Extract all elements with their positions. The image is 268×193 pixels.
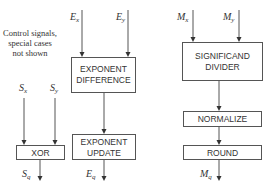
input-label-ey: Ey — [115, 11, 126, 24]
input-label-ex: Ex — [69, 11, 80, 24]
control-signals-note: Control signals, special cases not shown — [3, 28, 57, 58]
svg-text:DIVIDER: DIVIDER — [205, 62, 239, 72]
arrowhead-icon — [237, 37, 242, 42]
arrowhead-icon — [217, 140, 222, 145]
input-label-mx: Mx — [176, 11, 189, 24]
output-label-sq: Sq — [22, 168, 31, 181]
floating-point-divider-diagram: Control signals, special cases not shown… — [0, 0, 268, 193]
arrowhead-icon — [80, 52, 85, 57]
arrowhead-icon — [102, 176, 107, 181]
svg-text:not shown: not shown — [12, 48, 48, 58]
arrowhead-icon — [102, 129, 107, 134]
arrowhead-icon — [22, 140, 27, 145]
output-label-eq: Eq — [85, 168, 96, 181]
arrowhead-icon — [53, 140, 58, 145]
input-label-my: My — [222, 11, 235, 24]
svg-text:DIFFERENCE: DIFFERENCE — [76, 75, 131, 85]
arrowhead-icon — [191, 37, 196, 42]
arrowhead-icon — [126, 52, 131, 57]
svg-text:special cases: special cases — [8, 38, 52, 48]
input-label-sy: Sy — [50, 82, 59, 95]
arrowhead-icon — [217, 106, 222, 111]
svg-text:UPDATE: UPDATE — [87, 148, 121, 158]
exponent-path: Ex Ey EXPONENT DIFFERENCE EXPONENT UPDAT… — [69, 10, 136, 181]
sign-path: Sx Sy XOR Sq — [17, 82, 65, 181]
svg-text:SIGNIFICAND: SIGNIFICAND — [195, 51, 250, 61]
arrowhead-icon — [217, 176, 222, 181]
svg-text:EXPONENT: EXPONENT — [80, 64, 127, 74]
input-label-sx: Sx — [19, 82, 28, 95]
svg-text:Control signals,: Control signals, — [3, 28, 57, 38]
output-label-mq: Mq — [199, 168, 212, 181]
significand-path: Mx My SIGNIFICAND DIVIDER NORMALIZE ROUN… — [176, 10, 263, 181]
svg-text:NORMALIZE: NORMALIZE — [198, 114, 248, 124]
svg-text:ROUND: ROUND — [207, 148, 238, 158]
arrowhead-icon — [38, 176, 43, 181]
svg-text:XOR: XOR — [31, 148, 49, 158]
svg-text:EXPONENT: EXPONENT — [81, 137, 128, 147]
